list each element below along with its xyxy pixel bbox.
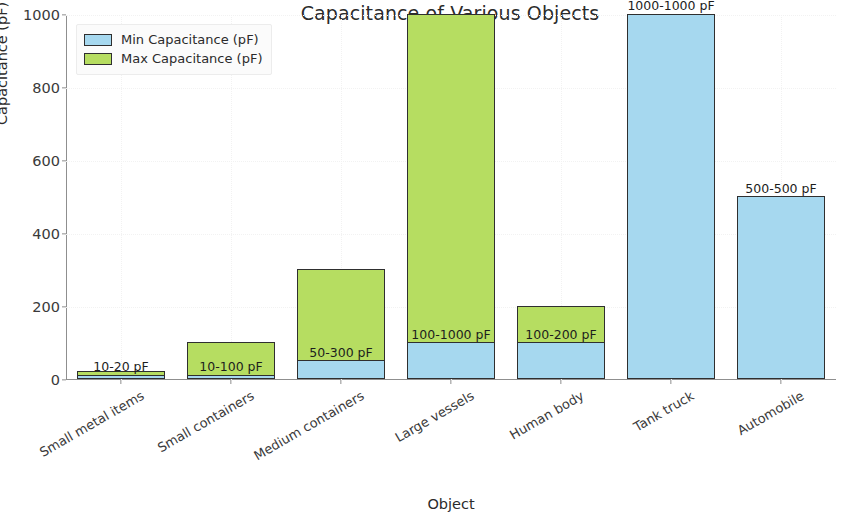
x-tick-mark <box>780 380 781 384</box>
legend-label-max: Max Capacitance (pF) <box>121 51 262 66</box>
y-axis-spine <box>66 15 67 380</box>
legend-swatch-min-icon <box>84 34 112 46</box>
x-tick-mark <box>230 380 231 384</box>
legend-item-min: Min Capacitance (pF) <box>84 30 262 49</box>
y-tick-label: 200 <box>2 299 60 315</box>
y-tick-mark <box>62 87 66 88</box>
y-tick-label: 1000 <box>2 7 60 23</box>
legend-swatch-max-icon <box>84 53 112 65</box>
bar-value-label: 500-500 pF <box>745 181 816 196</box>
legend-label-min: Min Capacitance (pF) <box>121 32 259 47</box>
y-tick-label: 800 <box>2 80 60 96</box>
y-tick-label: 400 <box>2 226 60 242</box>
x-tick-label: Tank truck <box>631 388 697 434</box>
x-tick-mark <box>450 380 451 384</box>
bar-value-label: 100-200 pF <box>525 327 596 342</box>
x-tick-label: Small containers <box>155 388 257 455</box>
y-tick-mark <box>62 233 66 234</box>
bar-min-capacitance[interactable] <box>737 196 825 379</box>
bar-min-capacitance[interactable] <box>517 342 605 379</box>
bar-value-label: 1000-1000 pF <box>627 0 714 13</box>
x-tick-mark <box>120 380 121 384</box>
bar-min-capacitance[interactable] <box>297 360 385 378</box>
x-axis-title: Object <box>0 496 864 512</box>
bar-max-capacitance[interactable] <box>407 14 495 379</box>
x-tick-label: Automobile <box>735 388 807 438</box>
y-tick-mark <box>62 160 66 161</box>
bar-min-capacitance[interactable] <box>187 375 275 379</box>
y-tick-label: 600 <box>2 153 60 169</box>
bar-min-capacitance[interactable] <box>627 14 715 379</box>
legend-item-max: Max Capacitance (pF) <box>84 49 262 68</box>
x-tick-label: Human body <box>507 388 587 443</box>
x-tick-mark <box>560 380 561 384</box>
y-tick-mark <box>62 14 66 15</box>
x-tick-label: Large vessels <box>393 388 477 445</box>
bar-min-capacitance[interactable] <box>407 342 495 379</box>
bar-min-capacitance[interactable] <box>77 375 165 379</box>
y-tick-mark <box>62 379 66 380</box>
chart-legend: Min Capacitance (pF) Max Capacitance (pF… <box>76 24 272 75</box>
bar-value-label: 10-20 pF <box>93 359 148 374</box>
x-tick-mark <box>670 380 671 384</box>
bar-value-label: 100-1000 pF <box>411 327 490 342</box>
bar-value-label: 10-100 pF <box>199 359 262 374</box>
y-tick-label: 0 <box>2 372 60 388</box>
x-tick-mark <box>340 380 341 384</box>
bar-value-label: 50-300 pF <box>309 345 372 360</box>
x-tick-label: Medium containers <box>251 388 366 463</box>
x-tick-label: Small metal items <box>37 388 147 460</box>
y-tick-mark <box>62 306 66 307</box>
chart-canvas: Capacitance of Various Objects Capacitan… <box>0 0 864 522</box>
